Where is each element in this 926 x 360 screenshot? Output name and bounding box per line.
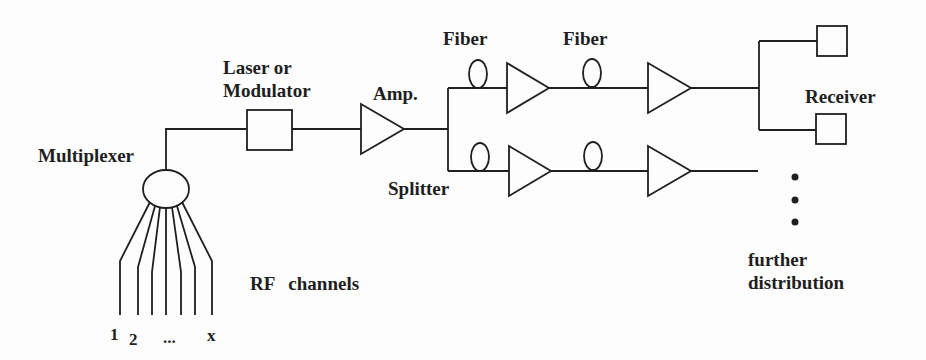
- line-amp-triangle-upper-2: [648, 63, 691, 113]
- laser-modulator-label-line1: Laser or: [223, 56, 311, 79]
- multiplexer-label: Multiplexer: [38, 144, 134, 167]
- fiber-distribution-diagram: Multiplexer Laser or Modulator Amp. Fibe…: [0, 0, 926, 360]
- fiber-coil-icon-upper-1: [469, 60, 487, 88]
- further-distribution-line2: distribution: [748, 271, 844, 294]
- line-amp-triangle-lower-1: [509, 146, 551, 196]
- channel-label-dots: ...: [163, 329, 176, 347]
- receiver-box-icon-bottom: [816, 114, 846, 144]
- splitter-label: Splitter: [388, 177, 449, 200]
- laser-modulator-box-icon: [247, 110, 292, 150]
- further-distribution-label: further distribution: [748, 248, 844, 294]
- diagram-line-art: [0, 0, 926, 360]
- ellipsis-dot-3: [792, 219, 799, 226]
- receiver-label: Receiver: [805, 85, 876, 108]
- rf-channels-label: RF channels: [250, 272, 359, 295]
- channel-label-2: 2: [129, 331, 138, 349]
- amp-triangle-icon: [361, 104, 404, 154]
- receiver-box-icon-top: [817, 26, 847, 56]
- rf-channel-line-3: [152, 207, 160, 315]
- rf-channel-line-5: [172, 207, 181, 315]
- mux-to-modulator-line: [166, 129, 247, 170]
- rf-channel-line-1: [120, 202, 150, 315]
- amp-label: Amp.: [373, 82, 418, 105]
- fiber-coil-icon-lower-1: [471, 143, 489, 171]
- ellipsis-dot-2: [792, 197, 799, 204]
- line-amp-triangle-lower-2: [648, 146, 691, 196]
- laser-modulator-label: Laser or Modulator: [223, 56, 311, 102]
- fiber-label-2: Fiber: [563, 27, 607, 50]
- further-distribution-line1: further: [748, 248, 844, 271]
- fiber-coil-icon-upper-2: [583, 59, 601, 87]
- rf-channel-line-7: [182, 202, 212, 315]
- laser-modulator-label-line2: Modulator: [223, 79, 311, 102]
- fiber-label-1: Fiber: [443, 27, 487, 50]
- ellipsis-dot-1: [792, 174, 799, 181]
- line-amp-triangle-upper-1: [507, 63, 549, 113]
- channel-label-1: 1: [110, 326, 119, 344]
- fiber-coil-icon-lower-2: [584, 142, 602, 170]
- channel-label-x: x: [207, 327, 216, 345]
